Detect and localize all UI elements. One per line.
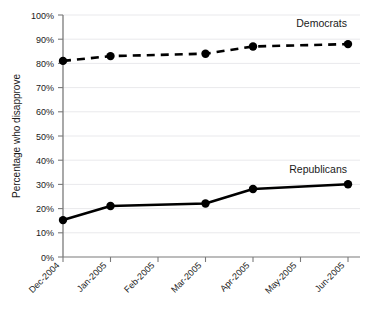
democrats-data-point [106,52,114,60]
democrats-data-point [344,40,352,48]
republicans-series-label: Republicans [289,163,347,175]
republicans-data-point [106,202,114,210]
y-tick-label: 50% [36,132,54,142]
republicans-data-point [201,199,209,207]
line-chart: 100% 90% 80% 70% 60% 50% 40% 30% 20% 10%… [0,0,367,316]
democrats-data-point [249,42,257,50]
y-tick-label: 0% [41,253,54,263]
republicans-data-point [249,185,257,193]
chart-figure: 100% 90% 80% 70% 60% 50% 40% 30% 20% 10%… [0,0,367,316]
y-tick-label: 40% [36,156,54,166]
y-tick-label: 80% [36,59,54,69]
y-tick-label: 100% [31,11,54,21]
y-tick-label: 10% [36,228,54,238]
republicans-data-point [344,180,352,188]
democrats-series-label: Democrats [296,17,347,29]
y-tick-label: 60% [36,107,54,117]
y-tick-label: 70% [36,83,54,93]
y-axis-title: Percentage who disapprove [11,74,22,198]
democrats-data-point [201,50,209,58]
y-tick-label: 20% [36,204,54,214]
y-tick-label: 30% [36,180,54,190]
democrats-data-point [59,57,67,65]
republicans-data-point [59,216,67,224]
y-tick-label: 90% [36,35,54,45]
